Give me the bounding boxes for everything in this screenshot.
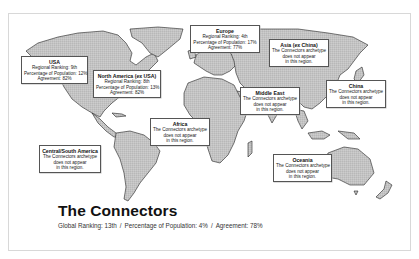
callout-africa: Africa The Connectors archetype does not… — [150, 118, 210, 146]
region-note-1: The Connectors archetype — [276, 163, 329, 169]
figure-summary: Global Ranking: 13th/Percentage of Popul… — [58, 222, 263, 229]
callout-oceania: Oceania The Connectors archetype does no… — [273, 154, 332, 182]
land-tasmania — [354, 191, 358, 195]
population-share: Percentage of Population: 4% — [125, 222, 208, 229]
separator: / — [117, 222, 125, 229]
region-agreement: Agreement: 77% — [193, 45, 257, 51]
region-name: North America (ex USA) — [96, 73, 158, 79]
figure-title: The Connectors — [58, 202, 177, 220]
region-note-3: in this region. — [272, 59, 326, 65]
region-note-1: The Connectors archetype — [329, 89, 383, 95]
callout-europe: Europe Regional Ranking: 4th Percentage … — [190, 25, 260, 53]
land-new-zealand — [376, 181, 392, 199]
region-name: Central/South America — [42, 148, 98, 154]
land-caribbean — [112, 113, 126, 117]
region-note-3: in this region. — [329, 100, 383, 106]
callout-china: China The Connectors archetype does not … — [326, 80, 386, 108]
region-note-3: in this region. — [243, 107, 297, 113]
region-note-1: The Connectors archetype — [272, 48, 326, 54]
land-new-guinea — [338, 131, 360, 139]
agreement: Agreement: 78% — [216, 222, 263, 229]
global-ranking: Global Ranking: 13th — [58, 222, 117, 229]
region-note-3: in this region. — [153, 138, 207, 144]
region-note-1: The Connectors archetype — [42, 154, 98, 160]
callout-usa: USA Regional Ranking: 9th Percentage of … — [21, 56, 88, 84]
callout-middle-east: Middle East The Connectors archetype doe… — [240, 87, 300, 115]
region-ranking: Regional Ranking: 4th — [193, 34, 257, 40]
region-agreement: Agreement: 82% — [96, 90, 158, 96]
region-ranking: Regional Ranking: 9th — [24, 65, 85, 71]
region-note-3: in this region. — [276, 174, 329, 180]
callout-central-south-america: Central/South America The Connectors arc… — [39, 145, 101, 173]
region-ranking: Regional Ranking: 8th — [96, 79, 158, 85]
separator: / — [208, 222, 216, 229]
callout-north-america: North America (ex USA) Regional Ranking:… — [93, 70, 161, 98]
region-note-1: The Connectors archetype — [243, 96, 297, 102]
region-note-1: The Connectors archetype — [153, 127, 207, 133]
land-madagascar — [248, 141, 252, 157]
land-greenland — [130, 27, 183, 57]
region-name: Asia (ex China) — [272, 42, 326, 48]
land-indonesia — [308, 131, 330, 139]
callout-asia: Asia (ex China) The Connectors archetype… — [269, 39, 329, 67]
region-agreement: Agreement: 82% — [24, 76, 85, 82]
region-note-3: in this region. — [42, 165, 98, 171]
